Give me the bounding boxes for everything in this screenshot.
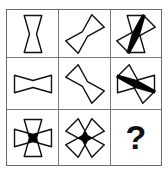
matrix-cell-8[interactable] <box>59 110 111 165</box>
hourglass-horizontal-diagonal-overlay-shape <box>114 62 158 106</box>
hourglass-vertical-shape <box>11 12 55 56</box>
hourglass-star-overlay-shape <box>63 116 107 160</box>
matrix-cell-5[interactable] <box>59 58 111 110</box>
hourglass-diagonal-left-shape <box>63 62 107 106</box>
matrix-cell-6[interactable] <box>111 58 161 110</box>
matrix-cell-1[interactable] <box>7 10 59 58</box>
matrix-cell-9-answer[interactable]: ? <box>111 110 161 165</box>
hourglass-horizontal-shape <box>11 62 55 106</box>
matrix-cell-7[interactable] <box>7 110 59 165</box>
matrix-cell-3[interactable] <box>111 10 161 58</box>
matrix-cell-2[interactable] <box>59 10 111 58</box>
puzzle-page: ? <box>0 0 168 174</box>
question-mark-label: ? <box>126 120 147 154</box>
hourglass-cross-overlay-shape <box>11 116 55 160</box>
matrix-cell-4[interactable] <box>7 58 59 110</box>
hourglass-vertical-diagonal-overlay-shape <box>114 12 158 56</box>
hourglass-diagonal-right-shape <box>63 12 107 56</box>
matrix-grid: ? <box>6 9 162 166</box>
